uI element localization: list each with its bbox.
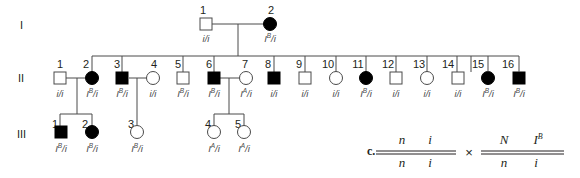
svg-text:n: n: [399, 155, 406, 170]
gen3-individual-5: 5 IA/i: [235, 118, 251, 154]
gen1-individual-1: 1 i/i: [200, 4, 212, 44]
svg-text:i/i: i/i: [150, 88, 158, 99]
svg-text:IB/i: IB/i: [177, 87, 190, 99]
svg-text:c.: c.: [367, 144, 375, 158]
svg-text:n: n: [399, 132, 406, 147]
gen2-individual-3: 3 IB/i: [114, 58, 129, 99]
svg-text:IB/i: IB/i: [482, 87, 495, 99]
svg-text:i/i: i/i: [271, 88, 279, 99]
svg-text:i/i: i/i: [455, 88, 463, 99]
svg-text:2: 2: [83, 58, 89, 70]
gen3-individual-4: 4 IA/i: [205, 118, 221, 154]
svg-text:IB/i: IB/i: [360, 87, 373, 99]
svg-text:7: 7: [242, 58, 248, 70]
gen2-individual-7: 7 IA/i: [240, 58, 253, 99]
svg-text:5: 5: [175, 58, 181, 70]
gen2-individual-4: 4 i/i: [147, 58, 160, 99]
gen2-individual-11: 11 IB/i: [352, 58, 372, 99]
gen2-individual-2: 2 IB/i: [83, 58, 99, 99]
gen2-individual-15: 15 IB/i: [472, 58, 495, 99]
gen2-individual-6: 6 IB/i: [206, 58, 221, 99]
svg-text:IB/i: IB/i: [513, 87, 526, 99]
svg-text:9: 9: [296, 58, 302, 70]
svg-text:1: 1: [200, 4, 206, 16]
svg-text:IB/i: IB/i: [55, 142, 68, 154]
gen2-individual-14: 14 i/i: [442, 58, 464, 99]
svg-text:i: i: [534, 155, 538, 170]
svg-text:IB/i: IB/i: [131, 142, 144, 154]
svg-text:i/i: i/i: [302, 88, 310, 99]
gen3-individual-3: 3 IB/i: [128, 118, 144, 154]
svg-text:×: ×: [465, 145, 473, 160]
generation-label-I: I: [20, 19, 23, 31]
svg-text:14: 14: [442, 58, 454, 70]
svg-text:IA/i: IA/i: [238, 142, 251, 154]
svg-text:13: 13: [413, 58, 425, 70]
gen2-individual-1: 1 i/i: [54, 58, 66, 99]
svg-text:i/i: i/i: [203, 33, 211, 44]
svg-text:N: N: [499, 132, 510, 147]
svg-text:i/i: i/i: [57, 88, 65, 99]
svg-text:15: 15: [472, 58, 484, 70]
gen1-individual-2: 2 IB/i: [264, 4, 277, 44]
svg-text:4: 4: [151, 58, 157, 70]
gen2-individual-12: 12 i/i: [382, 58, 402, 99]
svg-text:i: i: [428, 132, 432, 147]
svg-text:i/i: i/i: [424, 88, 432, 99]
svg-text:i/i: i/i: [393, 88, 401, 99]
svg-text:10: 10: [322, 58, 334, 70]
gen2-individual-13: 13 i/i: [413, 58, 434, 99]
generation-label-III: III: [17, 128, 26, 140]
svg-text:n: n: [501, 155, 508, 170]
svg-text:11: 11: [352, 58, 363, 70]
svg-text:IB: IB: [532, 132, 542, 147]
svg-text:IA/i: IA/i: [240, 87, 253, 99]
svg-text:16: 16: [502, 58, 514, 70]
gen1-mating: [212, 24, 264, 56]
svg-text:12: 12: [382, 58, 394, 70]
gen2-individual-5: 5 IB/i: [175, 58, 190, 99]
svg-text:IB/i: IB/i: [86, 142, 99, 154]
svg-text:IA/i: IA/i: [208, 142, 221, 154]
gen3-individual-2: 2 IB/i: [82, 118, 99, 154]
generation-label-II: II: [18, 72, 24, 84]
svg-text:IB/i: IB/i: [86, 87, 99, 99]
svg-text:IB/i: IB/i: [116, 87, 129, 99]
pedigree-diagram: I II III 1 i/i 2 IB/i: [0, 0, 580, 178]
cross-notation: c. n i n i × N IB n i: [367, 132, 564, 170]
male-unaffected-symbol: [200, 18, 212, 30]
svg-text:IB/i: IB/i: [208, 87, 221, 99]
female-affected-symbol: [264, 18, 277, 31]
svg-text:IB/i: IB/i: [264, 32, 277, 44]
svg-text:6: 6: [206, 58, 212, 70]
svg-text:2: 2: [268, 4, 274, 16]
gen2-individual-16: 16 IB/i: [502, 58, 526, 99]
gen2-individual-10: 10 i/i: [322, 58, 343, 99]
svg-text:3: 3: [114, 58, 120, 70]
gen2-individual-8: 8 i/i: [265, 58, 280, 99]
svg-text:i/i: i/i: [333, 88, 341, 99]
gen2-individual-9: 9 i/i: [296, 58, 311, 99]
svg-text:8: 8: [265, 58, 271, 70]
svg-text:1: 1: [57, 58, 63, 70]
svg-text:i: i: [428, 155, 432, 170]
